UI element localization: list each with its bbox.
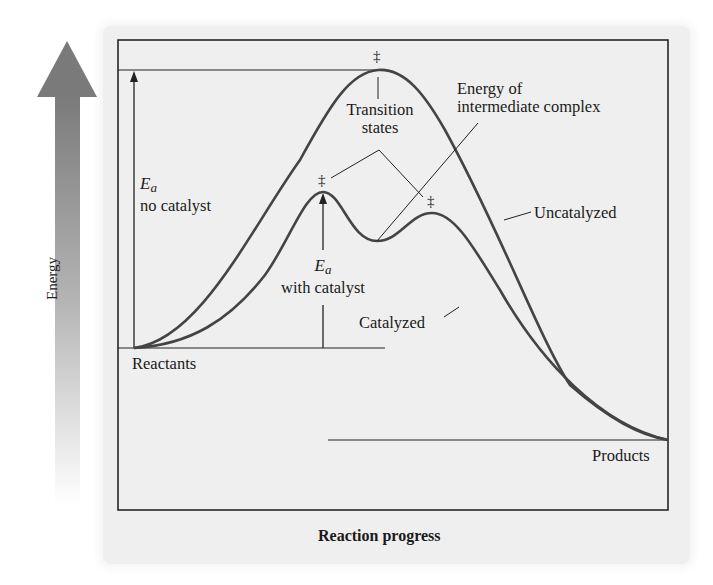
x-axis-label: Reaction progress xyxy=(318,527,441,545)
transition-state-marker-uncatalyzed: ‡ xyxy=(373,49,381,64)
intermediate-line2: intermediate complex xyxy=(457,98,600,116)
catalyzed-label: Catalyzed xyxy=(359,314,425,332)
transition-states-line2: states xyxy=(330,119,430,137)
ea-subscript: a xyxy=(325,262,332,277)
ts-label-leaders xyxy=(331,150,423,197)
products-label: Products xyxy=(592,447,650,465)
transition-state-marker-catalyzed-1: ‡ xyxy=(318,173,326,188)
transition-state-marker-catalyzed-2: ‡ xyxy=(427,194,435,209)
no-catalyst-text: no catalyst xyxy=(140,197,211,215)
ea-no-catalyst-arrow xyxy=(130,71,138,348)
ea-symbol: E xyxy=(315,256,325,275)
reactants-label: Reactants xyxy=(132,355,196,373)
ea-with-catalyst-label: Ea with catalyst xyxy=(268,257,378,297)
ea-subscript: a xyxy=(150,180,157,195)
uncatalyzed-leader xyxy=(504,212,531,220)
intermediate-line1: Energy of xyxy=(457,80,600,98)
transition-states-label: Transition states xyxy=(330,101,430,137)
catalyzed-leader xyxy=(444,307,459,317)
y-axis-label: Energy xyxy=(44,257,61,300)
intermediate-leader xyxy=(377,123,478,241)
uncatalyzed-label: Uncatalyzed xyxy=(534,204,616,222)
with-catalyst-text: with catalyst xyxy=(268,279,378,297)
ea-symbol: E xyxy=(140,174,150,193)
ea-no-catalyst-label: Ea no catalyst xyxy=(140,175,211,215)
intermediate-complex-label: Energy of intermediate complex xyxy=(457,80,600,116)
transition-states-line1: Transition xyxy=(330,101,430,119)
